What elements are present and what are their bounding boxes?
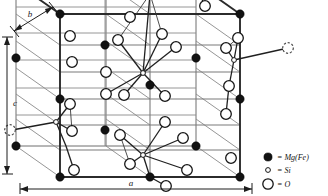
legend-item-mg-fe: = Mg(Fe) (264, 153, 309, 162)
silicon-atoms (54, 58, 237, 158)
olivine-structure-figure: a b c = Mg(Fe) = Si = O (0, 0, 328, 196)
axis-c-label: c (13, 98, 17, 108)
legend: = Mg(Fe) = Si = O (263, 153, 309, 189)
legend-label-mg-fe: = Mg(Fe) (277, 153, 309, 162)
oxygen-atoms (65, 1, 244, 192)
mg-fe-symbol-icon (264, 153, 272, 161)
axis-b-label: b (28, 9, 33, 19)
legend-label-o: = O (277, 180, 290, 189)
legend-item-si: = Si (266, 166, 291, 175)
axis-a: a (20, 178, 252, 194)
o-symbol-icon (263, 179, 273, 189)
axis-a-label: a (129, 178, 134, 188)
si-symbol-icon (266, 168, 271, 173)
legend-item-o: = O (263, 179, 291, 189)
legend-label-si: = Si (277, 166, 291, 175)
